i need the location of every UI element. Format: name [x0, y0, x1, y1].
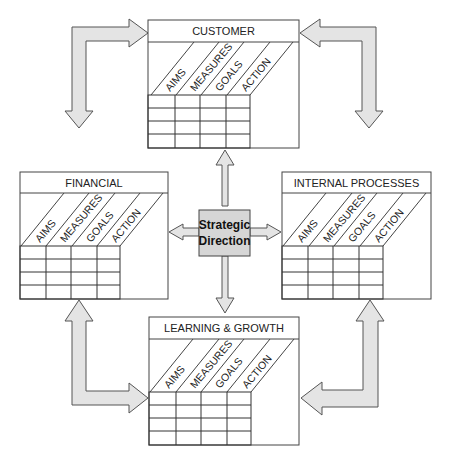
customer-box: CUSTOMER AIMS MEASURES GOALS ACTION — [148, 20, 299, 148]
strategic-direction-box: Strategic Direction — [198, 210, 250, 256]
box-title: FINANCIAL — [65, 177, 122, 189]
arrow-financial-customer — [65, 19, 148, 128]
arrow-customer-internal — [300, 19, 383, 128]
financial-box: FINANCIAL AIMS MEASURES GOALS ACTION — [20, 172, 168, 299]
center-label-line1: Strategic — [199, 218, 251, 232]
box-title: CUSTOMER — [192, 25, 255, 37]
internal-processes-box: INTERNAL PROCESSES AIMS MEASURES GOALS A… — [282, 172, 431, 299]
box-title: LEARNING & GROWTH — [164, 322, 284, 334]
arrow-center-left — [169, 224, 199, 240]
box-title: INTERNAL PROCESSES — [294, 177, 420, 189]
center-label-line2: Direction — [198, 234, 250, 248]
learning-growth-box: LEARNING & GROWTH AIMS MEASURES GOALS AC… — [149, 317, 299, 445]
arrow-learning-internal — [301, 300, 384, 415]
balanced-scorecard-diagram: Strategic Direction CUSTOMER AIMS MEASUR… — [0, 0, 449, 464]
arrow-center-right — [250, 224, 281, 240]
arrow-center-up — [216, 150, 234, 206]
arrow-center-down — [216, 256, 234, 313]
arrow-financial-learning — [65, 300, 148, 413]
